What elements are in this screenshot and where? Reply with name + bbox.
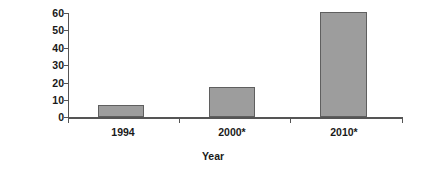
bar-1994 xyxy=(98,105,144,117)
x-axis-line xyxy=(68,117,403,119)
x-tick-mark-end xyxy=(402,118,403,123)
bar-2000 xyxy=(209,87,255,117)
y-tick-label-0: 0 xyxy=(38,112,64,122)
x-tick-mark-1 xyxy=(179,118,180,123)
y-tick-label-40: 40 xyxy=(38,43,64,53)
x-tick-label-2000: 2000* xyxy=(187,126,277,138)
y-tick-label-60: 60 xyxy=(38,8,64,18)
y-tick-label-30: 30 xyxy=(38,60,64,70)
x-tick-mark-start xyxy=(68,118,69,123)
y-tick-label-10: 10 xyxy=(38,95,64,105)
x-tick-label-2010: 2010* xyxy=(299,126,389,138)
x-tick-mark-2 xyxy=(290,118,291,123)
x-tick-label-1994: 1994 xyxy=(78,126,168,138)
y-tick-label-20: 20 xyxy=(38,78,64,88)
y-tick-label-50: 50 xyxy=(38,25,64,35)
plot-area: 60 50 40 30 20 10 0 1994 2000* 2010* Yea… xyxy=(0,0,426,172)
x-axis-title: Year xyxy=(0,150,426,162)
bar-chart-figure: US$ (billions) 60 50 40 30 20 10 0 1994 … xyxy=(0,0,426,172)
bar-2010 xyxy=(320,12,367,117)
y-axis-line xyxy=(68,13,69,118)
